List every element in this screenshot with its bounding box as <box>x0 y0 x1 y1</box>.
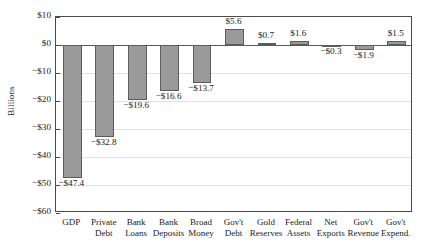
y-axis-tick-label: −$30 <box>6 122 51 132</box>
bar[interactable] <box>225 29 244 45</box>
y-tick-mark <box>56 45 60 46</box>
y-axis-tick-label: −$50 <box>6 178 51 188</box>
bar-chart: Billions $10$0−$10−$20−$30−$40−$50−$60 −… <box>0 0 421 250</box>
bar-value-label: −$13.7 <box>178 83 224 93</box>
y-axis-tick-label: −$10 <box>6 66 51 76</box>
y-axis-tick-label: −$40 <box>6 150 51 160</box>
bar-value-label: $5.6 <box>210 16 256 26</box>
bar[interactable] <box>63 45 82 178</box>
bar[interactable] <box>193 45 212 83</box>
bar-value-label: −$1.9 <box>340 50 386 60</box>
bar-value-label: $1.5 <box>373 28 419 38</box>
bar[interactable] <box>160 45 179 91</box>
y-tick-mark <box>56 101 60 102</box>
y-tick-mark <box>56 157 60 158</box>
y-tick-mark <box>56 129 60 130</box>
bar-value-label: −$32.8 <box>80 137 126 147</box>
y-tick-mark <box>56 213 60 214</box>
y-axis-tick-label: −$60 <box>6 206 51 216</box>
bar-value-label: $1.6 <box>275 28 321 38</box>
y-tick-mark <box>56 73 60 74</box>
gridline <box>56 157 411 158</box>
bar[interactable] <box>128 45 147 100</box>
gridline <box>56 185 411 186</box>
bar-value-label: −$47.4 <box>48 178 94 188</box>
y-axis-tick-label: $10 <box>6 10 51 20</box>
y-axis-tick-label: −$20 <box>6 94 51 104</box>
y-tick-mark <box>56 17 60 18</box>
plot-area <box>55 16 412 212</box>
bar[interactable] <box>95 45 114 137</box>
bar[interactable] <box>258 43 277 45</box>
y-axis-tick-label: $0 <box>6 38 51 48</box>
bar[interactable] <box>290 41 309 45</box>
x-axis-tick-label: Gov't Expend. <box>375 217 417 238</box>
bar[interactable] <box>387 41 406 45</box>
